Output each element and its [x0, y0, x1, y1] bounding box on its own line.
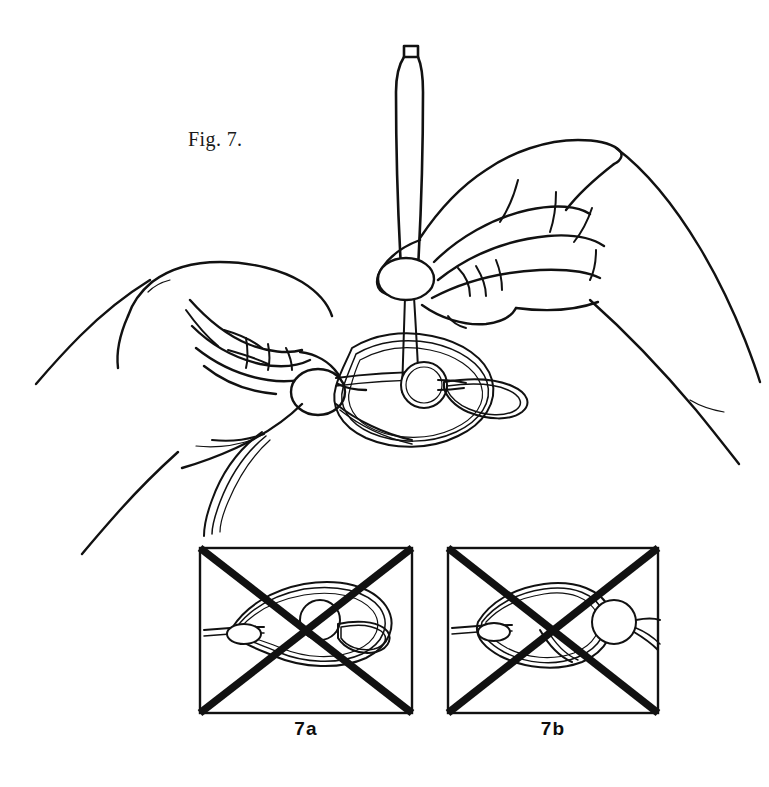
panel-7b-bead [592, 600, 636, 644]
panel-7a [200, 548, 412, 713]
panel-label-7a: 7a [276, 718, 336, 740]
figure-caption: Fig. 7. [188, 128, 242, 151]
knot-center-loop [401, 362, 447, 408]
panel-label-7b: 7b [523, 718, 583, 740]
figure-illustration [0, 0, 769, 787]
right-thumbnail [378, 258, 434, 300]
panel-7b [448, 548, 660, 713]
figure-root: Fig. 7. 7a 7b [0, 0, 769, 787]
